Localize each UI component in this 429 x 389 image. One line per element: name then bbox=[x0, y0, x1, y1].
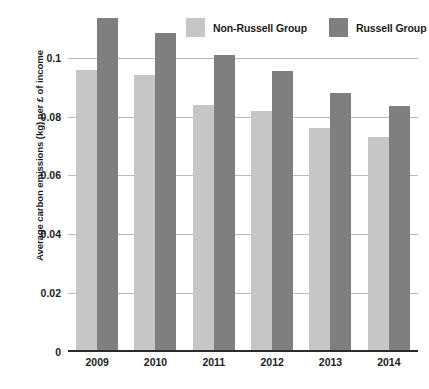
x-axis-tick-label: 2013 bbox=[301, 356, 359, 368]
bar-2011-series-1[interactable] bbox=[193, 105, 214, 352]
bar-2009-series-2[interactable] bbox=[97, 18, 118, 352]
y-axis-tick-label: 0.08 bbox=[41, 111, 61, 123]
bar-2013-series-2[interactable] bbox=[330, 93, 351, 352]
bar-group-2014 bbox=[360, 24, 418, 352]
y-axis-tick-label: 0.04 bbox=[41, 228, 61, 240]
bar-2014-series-1[interactable] bbox=[368, 137, 389, 352]
x-axis-tick-label: 2009 bbox=[68, 356, 126, 368]
bar-group-2012 bbox=[243, 24, 301, 352]
y-axis-tick-label: 0.06 bbox=[41, 169, 61, 181]
bar-2012-series-2[interactable] bbox=[272, 71, 293, 352]
plot-area: 00.020.040.060.080.1 bbox=[68, 24, 418, 352]
x-axis-tick-label: 2012 bbox=[243, 356, 301, 368]
bar-2010-series-1[interactable] bbox=[134, 75, 155, 352]
bar-2011-series-2[interactable] bbox=[214, 55, 235, 352]
bar-chart: Non-Russell Group Russell Group Average … bbox=[0, 0, 429, 389]
bar-group-2010 bbox=[126, 24, 184, 352]
bar-2009-series-1[interactable] bbox=[76, 70, 97, 352]
y-axis-tick-label: 0.02 bbox=[41, 287, 61, 299]
x-axis-tick-label: 2011 bbox=[185, 356, 243, 368]
bar-2013-series-1[interactable] bbox=[309, 128, 330, 352]
x-axis-tick-label: 2014 bbox=[360, 356, 418, 368]
x-axis-tick-labels: 200920102011201220132014 bbox=[68, 356, 418, 368]
bar-group-2011 bbox=[185, 24, 243, 352]
y-axis-tick-label: 0.1 bbox=[46, 52, 61, 64]
y-axis-title: Average carbon emissions (kg) per £ of i… bbox=[34, 31, 45, 281]
bar-2010-series-2[interactable] bbox=[155, 33, 176, 352]
bar-group-2009 bbox=[68, 24, 126, 352]
x-axis-line bbox=[68, 350, 418, 352]
bar-groups bbox=[68, 24, 418, 352]
bar-2014-series-2[interactable] bbox=[389, 106, 410, 352]
bar-group-2013 bbox=[301, 24, 359, 352]
bar-2012-series-1[interactable] bbox=[251, 111, 272, 352]
y-axis-tick-label: 0 bbox=[55, 346, 61, 358]
x-axis-tick-label: 2010 bbox=[126, 356, 184, 368]
